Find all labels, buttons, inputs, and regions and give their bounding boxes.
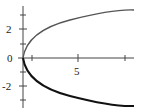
x-axis xyxy=(18,54,134,62)
y-label-0: 0 xyxy=(7,52,13,64)
y-label-neg2: -2 xyxy=(2,80,11,92)
parabola-chart: 5 2 0 -2 xyxy=(0,0,142,111)
upper-branch-curve xyxy=(23,10,134,58)
x-label-5: 5 xyxy=(74,65,80,77)
y-label-2: 2 xyxy=(6,23,12,35)
